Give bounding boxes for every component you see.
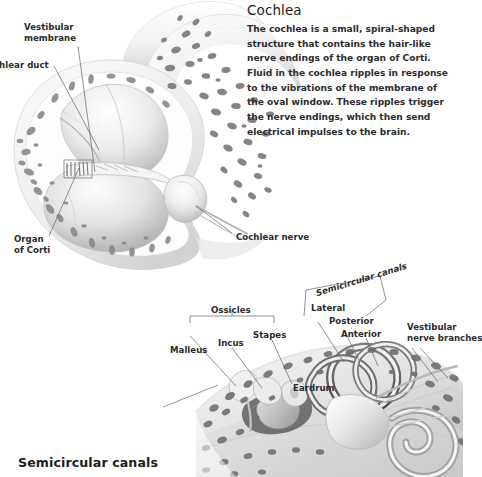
label-vestibular-membrane-line2: membrane [24, 33, 76, 44]
bone-texture-left [17, 73, 172, 256]
label-anterior: Anterior [341, 329, 381, 340]
label-ossicles: Ossicles [211, 305, 251, 316]
label-stapes: Stapes [253, 330, 286, 341]
label-eardrum: Eardrum [293, 383, 335, 394]
label-malleus: Malleus [170, 345, 207, 356]
label-vestibular-membrane-line1: Vestibular [24, 22, 76, 33]
label-posterior: Posterior [329, 316, 374, 327]
label-vestibular-nerve-line1: Vestibular [407, 322, 482, 333]
label-incus: Incus [218, 338, 244, 349]
label-lateral: Lateral [311, 303, 345, 314]
label-organ-of-corti: Organ of Corti [14, 234, 50, 257]
ear-semicircular-canals-illustration [196, 344, 463, 477]
label-semicircular-canals-callout: Semicircular canals [315, 261, 409, 300]
cochlea-description: The cochlea is a small, spiral-shaped st… [247, 22, 455, 140]
label-organ-of-corti-line1: Organ [14, 234, 50, 245]
cochlea-leader-lines [49, 46, 232, 236]
label-vestibular-membrane: Vestibular membrane [24, 22, 76, 45]
bone-texture-ear [201, 347, 463, 477]
semicircular-canals-heading: Semicircular canals [18, 455, 158, 470]
label-cochlear-duct: chlear duct [0, 60, 49, 71]
label-vestibular-nerve-line2: nerve branches [407, 333, 482, 344]
spiral-cochlea [390, 410, 456, 476]
label-organ-of-corti-line2: of Corti [14, 245, 50, 256]
label-vestibular-nerve-branches: Vestibular nerve branches [407, 322, 482, 345]
cochlea-title: Cochlea [247, 3, 455, 18]
label-cochlear-nerve: Cochlear nerve [236, 232, 309, 243]
cochlea-info-panel: Cochlea The cochlea is a small, spiral-s… [247, 3, 455, 140]
